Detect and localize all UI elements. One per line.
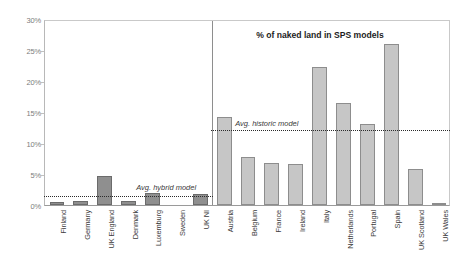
reference-line-hybrid-label: Avg. hybrid model	[136, 183, 196, 192]
x-tick-label: UK Scotland	[417, 210, 426, 250]
y-tick-label: 20%	[1, 78, 41, 87]
bars-layer	[45, 21, 449, 205]
plot-area	[44, 20, 450, 206]
x-tick-label: Portugal	[369, 210, 378, 237]
x-tick-label: Denmark	[131, 210, 140, 239]
bar	[50, 202, 65, 205]
bar	[73, 201, 88, 205]
chart-container: 30%25%20%15%10%5%0% FinlandGermanyUK Eng…	[0, 0, 471, 280]
bar	[408, 169, 423, 205]
panel-divider	[212, 21, 213, 205]
bar	[241, 157, 256, 205]
x-tick-label: Spain	[393, 210, 402, 228]
x-tick-label: Netherlands	[346, 210, 355, 249]
y-tick-label: 5%	[1, 171, 41, 180]
x-tick-label: Ireland	[298, 210, 307, 232]
bar	[312, 67, 327, 205]
x-tick-label: Austria	[226, 210, 235, 232]
x-tick-label: UK England	[107, 210, 116, 248]
bar	[97, 176, 112, 205]
x-tick-label: Luxemburg	[154, 210, 163, 246]
y-tick-label: 15%	[1, 109, 41, 118]
bar	[432, 203, 447, 205]
reference-line-historic	[211, 130, 450, 131]
x-tick-label: UK Wales	[441, 210, 450, 242]
reference-line-hybrid	[44, 196, 213, 197]
bar	[264, 163, 279, 205]
bar	[384, 44, 399, 205]
x-tick-label: Belgium	[250, 210, 259, 236]
bar	[121, 201, 136, 205]
reference-line-historic-label: Avg. historic model	[235, 119, 298, 128]
x-tick-label: Italy	[322, 210, 331, 223]
x-tick-label: Sweden	[178, 210, 187, 236]
y-tick-label: 30%	[1, 16, 41, 25]
bar	[336, 103, 351, 205]
y-tick-label: 10%	[1, 140, 41, 149]
panel-title: % of naked land in SPS models	[256, 30, 384, 40]
bar	[145, 193, 160, 205]
x-tick-label: Finland	[59, 210, 68, 234]
x-tick-label: France	[274, 210, 283, 232]
x-tick-label: UK NI	[202, 210, 211, 229]
x-axis-category-labels: FinlandGermanyUK EnglandDenmarkLuxemburg…	[0, 206, 471, 280]
bar	[360, 124, 375, 205]
x-tick-label: Germany	[83, 210, 92, 240]
y-tick-label: 25%	[1, 47, 41, 56]
bar	[288, 164, 303, 205]
